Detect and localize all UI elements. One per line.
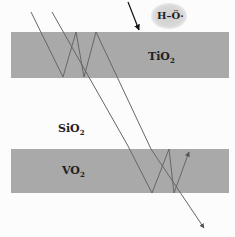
ray-b (52, 12, 189, 193)
diagram-canvas: TiO2 SiO2 VO2 H–Ö· (0, 0, 235, 237)
light-rays (0, 0, 235, 237)
ray-a (31, 12, 204, 228)
incoming-arrow-icon (128, 2, 139, 30)
